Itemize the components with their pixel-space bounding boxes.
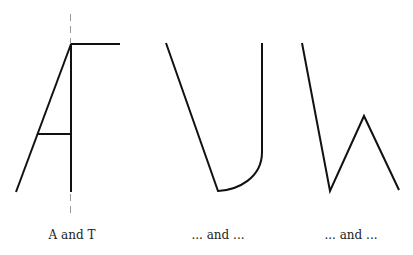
letter-shapes-diagram [0, 0, 413, 255]
a-and-t-shape [16, 14, 120, 216]
u-outline [166, 43, 262, 191]
caption-a-and-t: A and T [49, 228, 96, 242]
u-shape [166, 43, 262, 191]
w-outline [302, 43, 399, 191]
w-shape [302, 43, 399, 191]
caption-w-shape: ... and ... [324, 228, 377, 242]
a-left-leg [16, 44, 71, 192]
caption-u-shape: ... and ... [191, 228, 244, 242]
figure-canvas: A and T ... and ... ... and ... [0, 0, 413, 255]
